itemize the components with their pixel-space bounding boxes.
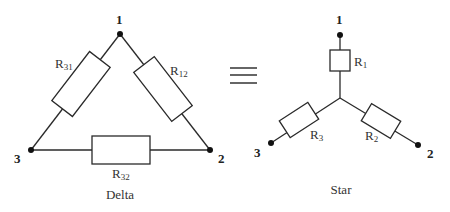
delta-node-3-label: 3 <box>14 151 21 166</box>
star-network: 1 2 3 R1 R2 R3 Star <box>254 12 434 197</box>
equivalence-icon <box>230 68 257 83</box>
star-node-3-dot <box>268 140 274 146</box>
delta-node-1-label: 1 <box>116 12 123 27</box>
star-caption: Star <box>331 182 353 197</box>
star-node-2-dot <box>415 142 421 148</box>
delta-node-3-dot <box>28 147 34 153</box>
delta-caption: Delta <box>106 187 134 202</box>
delta-network: 1 2 3 R31 R12 R32 Delta <box>14 12 225 202</box>
resistor-r1 <box>330 50 350 71</box>
delta-r12-label: R12 <box>170 63 188 79</box>
delta-star-diagram: 1 2 3 R31 R12 R32 Delta <box>0 0 450 212</box>
star-node-3-label: 3 <box>254 145 261 160</box>
delta-r31-label: R31 <box>55 56 73 72</box>
resistor-r32 <box>92 136 150 164</box>
star-node-2-label: 2 <box>427 146 434 161</box>
delta-node-2-dot <box>207 147 213 153</box>
resistor-r12 <box>134 57 193 122</box>
delta-node-1-dot <box>117 31 123 37</box>
star-r3-label: R3 <box>310 127 324 143</box>
delta-node-2-label: 2 <box>218 151 225 166</box>
star-r1-label: R1 <box>354 54 367 70</box>
delta-r32-label: R32 <box>112 166 130 182</box>
star-node-1-label: 1 <box>336 12 343 27</box>
star-node-1-dot <box>337 32 343 38</box>
